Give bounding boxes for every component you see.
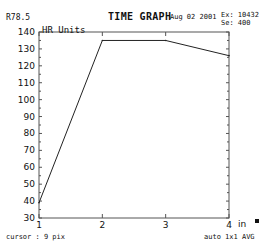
- series: [38, 40, 230, 204]
- y-tick-label: 40: [24, 196, 36, 206]
- series-line: [39, 40, 229, 202]
- y-tick-label: 100: [18, 95, 35, 105]
- x-tick-label: 4: [226, 220, 232, 230]
- cursor-marker-icon[interactable]: [255, 219, 259, 223]
- data-point: [165, 40, 167, 42]
- y-tick-label: 130: [18, 44, 35, 54]
- y-tick-label: 140: [18, 27, 35, 37]
- y-tick-label: 70: [24, 145, 36, 155]
- x-ticks: 1234: [36, 32, 232, 230]
- y-tick-label: 120: [18, 61, 35, 71]
- y-ticks: 30405060708090100110120130140: [18, 27, 229, 223]
- y-tick-label: 30: [24, 213, 36, 223]
- x-tick-label: 3: [163, 220, 169, 230]
- data-point: [102, 40, 104, 42]
- data-point: [38, 202, 40, 204]
- y-tick-label: 60: [24, 162, 36, 172]
- display-mode-status: auto 1x1 AVG: [204, 233, 255, 241]
- time-graph-chart: 30405060708090100110120130140 1234 HR Un…: [0, 0, 265, 245]
- x-tick-label: 2: [99, 220, 105, 230]
- plot-frame: [39, 32, 229, 218]
- data-point: [228, 55, 230, 57]
- cursor-status: cursor : 9 pix: [6, 233, 65, 241]
- x-tick-label: 1: [36, 220, 42, 230]
- y-tick-label: 90: [24, 112, 36, 122]
- y-tick-label: 80: [24, 128, 36, 138]
- y-tick-label: 50: [24, 179, 36, 189]
- x-axis-unit-label: in: [238, 219, 246, 229]
- y-tick-label: 110: [18, 78, 35, 88]
- y-axis-label: HR Units: [42, 25, 85, 35]
- axes: [39, 32, 229, 218]
